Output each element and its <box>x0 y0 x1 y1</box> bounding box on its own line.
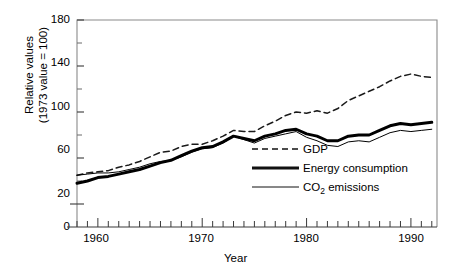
plot-frame <box>77 20 437 227</box>
chart-figure: Relative values (1973 value = 100) Year … <box>0 0 466 274</box>
plot-area <box>0 0 466 274</box>
series-line-gdp <box>77 74 432 175</box>
axes <box>67 20 437 227</box>
legend-line-samples <box>252 149 299 187</box>
